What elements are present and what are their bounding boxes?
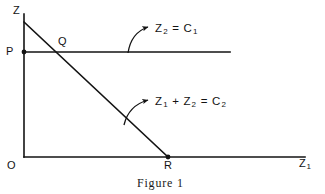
vertical-axis-label: Z	[13, 5, 20, 16]
horizontal-axis-label: Z1	[299, 158, 311, 171]
eq-diag-z: Z	[155, 95, 163, 107]
leader-arrow-horizontal	[128, 27, 148, 53]
eq-diag-sub-c2: 2	[221, 100, 227, 109]
leader-arrow-diagonal	[124, 100, 148, 125]
horizontal-axis-label-subscript: 1	[306, 162, 311, 171]
figure-caption: Figure 1	[137, 176, 184, 191]
horizontal-axis-label-base: Z	[299, 157, 306, 169]
horizontal-constraint-label: Z2 = C1	[155, 23, 198, 36]
eq-top-z: Z	[155, 22, 163, 34]
point-label-r: R	[164, 160, 172, 171]
eq-diag-plus-z: + Z	[169, 95, 192, 107]
point-label-p: P	[6, 46, 14, 57]
diagonal-constraint-label: Z1 + Z2 = C2	[155, 96, 227, 109]
diagonal-constraint-line	[24, 22, 168, 157]
eq-diag-equals: = C	[197, 95, 221, 107]
point-label-q: Q	[58, 36, 67, 47]
figure-container: Z Z1 O P Q R Z2 = C1 Z1 + Z2 = C2 Figure…	[0, 0, 325, 194]
eq-top-sub-c1: 1	[192, 27, 198, 36]
point-marker-p	[22, 50, 27, 55]
origin-label: O	[7, 160, 16, 171]
eq-top-equals: = C	[169, 22, 193, 34]
